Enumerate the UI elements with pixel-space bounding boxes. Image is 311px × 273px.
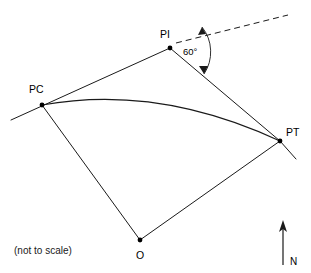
tangent-extension-beyond-pt <box>280 141 296 159</box>
label-pi: PI <box>160 28 170 40</box>
radius-line-o-pt <box>140 141 280 240</box>
point-dot-pt <box>278 139 283 144</box>
point-dot-pc <box>40 103 45 108</box>
label-o: O <box>136 249 144 261</box>
label-pt: PT <box>286 126 300 138</box>
point-dot-pi <box>168 46 173 51</box>
diagram-canvas: PC PI PT O 60° N (not to scale) <box>0 0 311 273</box>
forward-tangent-line <box>170 48 280 141</box>
label-north: N <box>290 256 297 267</box>
label-deflection-angle: 60° <box>183 46 198 57</box>
point-dot-o <box>138 238 143 243</box>
circular-curve-path <box>42 99 280 141</box>
dashed-tangent-extension <box>176 15 288 43</box>
radius-line-pc-o <box>42 105 140 240</box>
curve-geometry-diagram: PC PI PT O 60° N (not to scale) <box>0 0 311 273</box>
label-pc: PC <box>29 83 44 95</box>
not-to-scale-note: (not to scale) <box>14 245 72 256</box>
